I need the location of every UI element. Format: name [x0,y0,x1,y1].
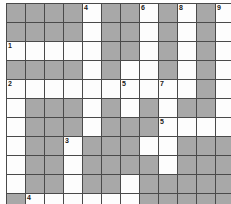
crossword-cell-r11-c6[interactable] [102,194,121,204]
crossword-cell-r3-c8[interactable] [140,42,159,61]
crossword-cell-r5-c3[interactable] [45,80,64,99]
crossword-cell-r7-c7 [121,118,140,137]
crossword-cell-r8-c9[interactable] [159,137,178,156]
crossword-cell-r9-c5 [83,156,102,175]
crossword-cell-r8-c5 [83,137,102,156]
crossword-cell-r4-c1 [7,61,26,80]
crossword-cell-r5-c4[interactable] [64,80,83,99]
crossword-cell-r8-c8[interactable] [140,137,159,156]
crossword-cell-r11-c12 [216,194,231,204]
crossword-cell-r8-c10 [178,137,197,156]
clue-number: 8 [179,4,183,12]
crossword-cell-r1-c5[interactable]: 4 [83,4,102,23]
crossword-cell-r2-c10[interactable] [178,23,197,42]
crossword-cell-r6-c12[interactable] [216,99,231,118]
crossword-cell-r5-c12[interactable] [216,80,231,99]
crossword-cell-r2-c1 [7,23,26,42]
crossword-cell-r8-c4[interactable]: 3 [64,137,83,156]
crossword-cell-r6-c10 [178,99,197,118]
crossword-cell-r2-c2 [26,23,45,42]
crossword-cell-r8-c1[interactable] [7,137,26,156]
crossword-cell-r6-c5[interactable] [83,99,102,118]
crossword-cell-r8-c11 [197,137,216,156]
crossword-cell-r11-c5[interactable] [83,194,102,204]
crossword-cell-r9-c9[interactable] [159,156,178,175]
crossword-cell-r10-c1[interactable] [7,175,26,194]
crossword-cell-r7-c5[interactable] [83,118,102,137]
crossword-cell-r11-c3[interactable] [45,194,64,204]
crossword-cell-r11-c11 [197,194,216,204]
crossword-cell-r3-c12[interactable] [216,42,231,61]
crossword-cell-r8-c2 [26,137,45,156]
crossword-cell-r7-c12[interactable] [216,118,231,137]
crossword-cell-r3-c10[interactable] [178,42,197,61]
crossword-cell-r2-c12[interactable] [216,23,231,42]
crossword-cell-r8-c12 [216,137,231,156]
crossword-cell-r10-c8 [140,175,159,194]
crossword-cell-r7-c10[interactable] [178,118,197,137]
clue-number: 4 [84,4,88,12]
crossword-cell-r4-c7[interactable] [121,61,140,80]
crossword-cell-r9-c11 [197,156,216,175]
crossword-cell-r3-c4[interactable] [64,42,83,61]
crossword-cell-r9-c4[interactable] [64,156,83,175]
crossword-cell-r2-c11 [197,23,216,42]
crossword-cell-r3-c3[interactable] [45,42,64,61]
crossword-cell-r4-c8[interactable] [140,61,159,80]
crossword-cell-r8-c7 [121,137,140,156]
crossword-cell-r5-c10[interactable] [178,80,197,99]
crossword-cell-r7-c8 [140,118,159,137]
crossword-cell-r2-c8[interactable] [140,23,159,42]
crossword-cell-r4-c12[interactable] [216,61,231,80]
crossword-cell-r6-c6 [102,99,121,118]
crossword-cell-r1-c10[interactable]: 8 [178,4,197,23]
crossword-cell-r5-c6[interactable] [102,80,121,99]
crossword-cell-r3-c1[interactable]: 1 [7,42,26,61]
crossword-cell-r3-c5[interactable] [83,42,102,61]
crossword-cell-r3-c9 [159,42,178,61]
crossword-cell-r4-c10[interactable] [178,61,197,80]
crossword-cell-r2-c6 [102,23,121,42]
crossword-cell-r7-c1[interactable] [7,118,26,137]
crossword-cell-r2-c3 [45,23,64,42]
crossword-cell-r3-c6 [102,42,121,61]
crossword-puzzle: 46891257534 [0,0,231,204]
crossword-cell-r2-c9 [159,23,178,42]
crossword-cell-r8-c3 [45,137,64,156]
crossword-grid[interactable]: 46891257534 [6,3,231,204]
crossword-cell-r5-c8[interactable] [140,80,159,99]
crossword-cell-r11-c7[interactable] [121,194,140,204]
crossword-cell-r1-c8[interactable]: 6 [140,4,159,23]
crossword-cell-r3-c11 [197,42,216,61]
crossword-cell-r7-c11[interactable] [197,118,216,137]
clue-number: 2 [8,80,12,88]
crossword-cell-r9-c8 [140,156,159,175]
crossword-cell-r4-c11 [197,61,216,80]
crossword-cell-r6-c7[interactable] [121,99,140,118]
crossword-cell-r6-c1[interactable] [7,99,26,118]
crossword-cell-r7-c9[interactable]: 5 [159,118,178,137]
crossword-cell-r9-c7 [121,156,140,175]
crossword-cell-r10-c7[interactable] [121,175,140,194]
crossword-cell-r6-c11 [197,99,216,118]
crossword-cell-r11-c4[interactable] [64,194,83,204]
crossword-cell-r5-c9[interactable]: 7 [159,80,178,99]
crossword-cell-r3-c2[interactable] [26,42,45,61]
crossword-cell-r4-c5[interactable] [83,61,102,80]
crossword-cell-r3-c7 [121,42,140,61]
crossword-cell-r5-c1[interactable]: 2 [7,80,26,99]
crossword-cell-r7-c4 [64,118,83,137]
crossword-cell-r5-c5[interactable] [83,80,102,99]
crossword-cell-r5-c2[interactable] [26,80,45,99]
crossword-cell-r11-c2[interactable]: 4 [26,194,45,204]
crossword-cell-r10-c2 [26,175,45,194]
crossword-cell-r2-c5[interactable] [83,23,102,42]
crossword-cell-r10-c11 [197,175,216,194]
crossword-cell-r6-c9[interactable] [159,99,178,118]
clue-number: 9 [217,4,221,12]
crossword-cell-r5-c7[interactable]: 5 [121,80,140,99]
crossword-cell-r1-c12[interactable]: 9 [216,4,231,23]
crossword-cell-r10-c10 [178,175,197,194]
crossword-cell-r10-c4[interactable] [64,175,83,194]
crossword-cell-r9-c1[interactable] [7,156,26,175]
